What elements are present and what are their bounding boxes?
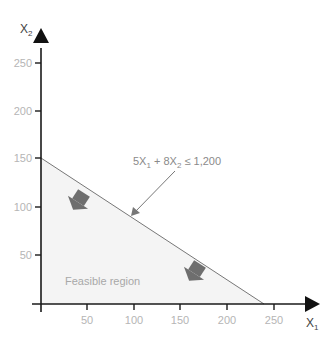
x-tick-label: 150 bbox=[171, 314, 189, 326]
x-axis-label: X1 bbox=[306, 316, 319, 332]
y-axis-arrow-icon bbox=[33, 28, 49, 43]
y-axis-label: X2 bbox=[20, 22, 33, 38]
pointer-arrow-line bbox=[135, 171, 175, 212]
y-tick-label: 250 bbox=[14, 57, 32, 69]
y-tick-label: 50 bbox=[20, 249, 32, 261]
lp-graph: 250 200 150 100 50 50 100 150 200 250 X2… bbox=[0, 0, 332, 340]
y-tick-label: 200 bbox=[14, 105, 32, 117]
x-tick-label: 250 bbox=[265, 314, 283, 326]
constraint-label: 5X1 + 8X2 ≤ 1,200 bbox=[133, 155, 221, 170]
y-ticks bbox=[35, 63, 41, 255]
y-tick-label: 100 bbox=[14, 201, 32, 213]
x-tick-label: 50 bbox=[81, 314, 93, 326]
x-ticks bbox=[87, 304, 274, 310]
feasible-region-label: Feasible region bbox=[65, 275, 140, 287]
y-tick-label: 150 bbox=[14, 152, 32, 164]
x-tick-label: 200 bbox=[218, 314, 236, 326]
x-tick-label: 100 bbox=[125, 314, 143, 326]
x-axis-arrow-icon bbox=[305, 296, 320, 312]
